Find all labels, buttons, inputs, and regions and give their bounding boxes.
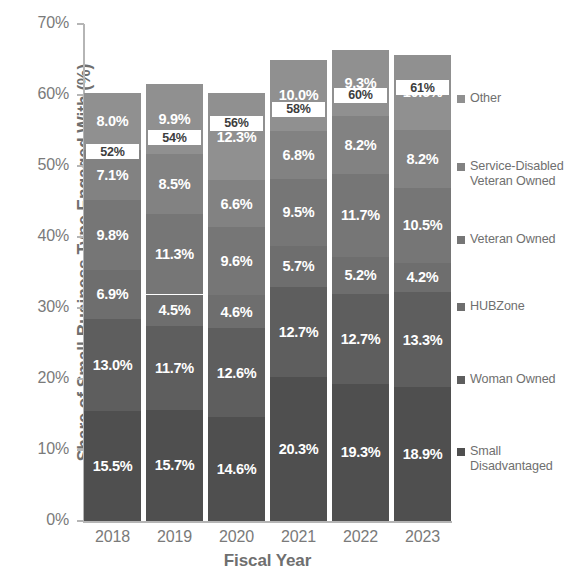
bar-segment-label: 8.2% <box>407 151 439 167</box>
x-tick-label-2020: 2020 <box>208 528 265 546</box>
bar-segment[interactable]: 18.9% <box>394 387 451 521</box>
legend-swatch-icon <box>457 376 465 384</box>
y-tick-label-30: 30% <box>9 298 69 316</box>
bar-segment[interactable]: 9.5% <box>270 179 327 246</box>
y-tick-10 <box>77 449 84 451</box>
legend-item[interactable]: Small Disadvantaged <box>457 444 573 473</box>
bar-segment[interactable]: 8.2% <box>332 116 389 174</box>
bar-2022[interactable]: 19.3%12.7%5.2%11.7%8.2%9.3%60% <box>332 0 389 581</box>
bar-segment-label: 15.7% <box>155 457 195 473</box>
bar-segment-label: 12.7% <box>279 324 319 340</box>
bar-segment[interactable]: 5.7% <box>270 246 327 286</box>
bar-segment[interactable]: 12.7% <box>332 294 389 384</box>
bar-segment-label: 9.9% <box>159 111 191 127</box>
bar-segment-label: 11.3% <box>155 246 194 262</box>
legend-label: Service-Disabled Veteran Owned <box>470 159 564 188</box>
bar-segment[interactable]: 11.3% <box>146 214 203 294</box>
y-tick-20 <box>77 378 84 380</box>
bar-segment[interactable]: 15.5% <box>84 411 141 521</box>
bar-segment[interactable]: 20.3% <box>270 377 327 521</box>
bar-segment[interactable]: 8.2% <box>394 130 451 188</box>
y-tick-40 <box>77 236 84 238</box>
legend-swatch-icon <box>457 163 465 171</box>
bar-segment[interactable]: 15.7% <box>146 410 203 521</box>
legend-item[interactable]: Veteran Owned <box>457 232 573 247</box>
y-tick-label-50: 50% <box>9 156 69 174</box>
bar-segment[interactable]: 9.6% <box>208 227 265 295</box>
bar-segment[interactable]: 9.3% <box>332 50 389 116</box>
bar-segment-label: 18.9% <box>403 446 443 462</box>
bar-segment-label: 10.5% <box>403 217 443 233</box>
bar-2020[interactable]: 14.6%12.6%4.6%9.6%6.6%12.3%56% <box>208 0 265 581</box>
y-tick-label-0: 0% <box>9 511 69 529</box>
bar-segment[interactable]: 8.0% <box>84 93 141 150</box>
bar-segment[interactable]: 12.3% <box>208 93 265 180</box>
legend-item[interactable]: HUBZone <box>457 299 573 314</box>
bar-segment-label: 11.7% <box>155 360 194 376</box>
bar-segment-label: 20.3% <box>279 441 319 457</box>
bar-segment-label: 5.2% <box>345 267 377 283</box>
bar-segment-label: 5.7% <box>283 258 315 274</box>
y-tick-label-70: 70% <box>9 14 69 32</box>
bar-segment-label: 9.5% <box>283 204 315 220</box>
bar-2021[interactable]: 20.3%12.7%5.7%9.5%6.8%10.0%58% <box>270 0 327 581</box>
y-tick-0 <box>77 520 84 522</box>
bar-segment[interactable]: 5.2% <box>332 257 389 294</box>
bar-segment[interactable]: 6.9% <box>84 270 141 319</box>
bar-segment-label: 6.6% <box>221 196 253 212</box>
legend-item[interactable]: Other <box>457 91 573 106</box>
legend-label: Small Disadvantaged <box>470 444 553 473</box>
bar-segment[interactable]: 19.3% <box>332 384 389 521</box>
legend-label: Woman Owned <box>470 372 555 387</box>
bar-segment[interactable]: 11.7% <box>146 326 203 409</box>
bar-segment-label: 12.6% <box>217 365 257 381</box>
y-tick-label-20: 20% <box>9 369 69 387</box>
bar-segment[interactable]: 6.6% <box>208 180 265 227</box>
y-tick-30 <box>77 307 84 309</box>
y-tick-label-60: 60% <box>9 85 69 103</box>
bar-segment[interactable]: 12.6% <box>208 328 265 417</box>
bar-2018[interactable]: 15.5%13.0%6.9%9.8%7.1%8.0%52% <box>84 0 141 581</box>
bar-segment[interactable]: 13.0% <box>84 319 141 411</box>
legend-item[interactable]: Service-Disabled Veteran Owned <box>457 159 573 188</box>
stacked-bar-chart: Share of Small Business Type Engaged Wit… <box>0 0 573 581</box>
bar-segment[interactable]: 9.8% <box>84 200 141 270</box>
legend-swatch-icon <box>457 236 465 244</box>
y-tick-50 <box>77 165 84 167</box>
bar-segment-label: 9.6% <box>221 253 253 269</box>
bar-segment[interactable]: 10.0% <box>270 60 327 131</box>
callout-box-2020: 56% <box>210 116 263 131</box>
bar-segment-label: 6.8% <box>283 147 315 163</box>
bar-segment[interactable]: 11.7% <box>332 174 389 257</box>
bar-segment-label: 13.0% <box>93 357 133 373</box>
bar-segment[interactable]: 8.5% <box>146 154 203 214</box>
bar-segment[interactable]: 4.5% <box>146 295 203 327</box>
bar-segment-label: 14.6% <box>217 461 257 477</box>
bar-segment[interactable]: 6.8% <box>270 131 327 179</box>
y-tick-label-40: 40% <box>9 227 69 245</box>
x-tick-label-2021: 2021 <box>270 528 327 546</box>
legend-item[interactable]: Woman Owned <box>457 372 573 387</box>
bar-segment-label: 4.5% <box>159 302 191 318</box>
bar-segment-label: 9.8% <box>97 227 129 243</box>
bar-segment[interactable]: 12.7% <box>270 287 327 377</box>
callout-box-2022: 60% <box>334 88 387 103</box>
bar-segment-label: 7.1% <box>97 167 129 183</box>
bar-segment-label: 12.7% <box>341 331 381 347</box>
legend-swatch-icon <box>457 303 465 311</box>
x-tick-label-2023: 2023 <box>394 528 451 546</box>
bar-2019[interactable]: 15.7%11.7%4.5%11.3%8.5%9.9%54% <box>146 0 203 581</box>
bar-segment[interactable]: 10.5% <box>394 188 451 263</box>
y-tick-label-10: 10% <box>9 440 69 458</box>
bar-segment-label: 8.2% <box>345 137 377 153</box>
bar-segment[interactable]: 14.6% <box>208 417 265 521</box>
bar-segment-label: 8.5% <box>159 176 191 192</box>
bar-segment[interactable]: 4.2% <box>394 263 451 293</box>
bar-2023[interactable]: 18.9%13.3%4.2%10.5%8.2%10.6%61% <box>394 0 451 581</box>
bar-segment-label: 6.9% <box>97 286 129 302</box>
bar-segment[interactable]: 4.6% <box>208 295 265 328</box>
bar-segment[interactable]: 13.3% <box>394 292 451 386</box>
x-tick-label-2019: 2019 <box>146 528 203 546</box>
y-tick-60 <box>77 94 84 96</box>
callout-box-2019: 54% <box>148 130 201 145</box>
